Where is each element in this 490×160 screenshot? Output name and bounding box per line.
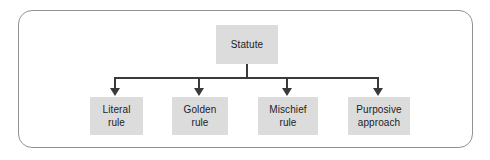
node-mischief-rule-label: Mischief rule — [269, 103, 306, 129]
arrow-down-icon-literal-rule — [110, 88, 120, 96]
node-statute-label: Statute — [231, 38, 263, 51]
connector-bus — [114, 77, 379, 79]
node-literal-rule: Literal rule — [90, 97, 143, 135]
arrow-down-icon-golden-rule — [194, 88, 204, 96]
node-mischief-rule: Mischief rule — [258, 97, 318, 135]
node-purposive-approach: Purposive approach — [348, 97, 410, 135]
diagram-root: Statute Literal rule Golden rule Mischie… — [0, 0, 490, 160]
arrow-down-icon-mischief-rule — [282, 88, 292, 96]
node-literal-rule-label: Literal rule — [103, 103, 131, 129]
node-purposive-approach-label: Purposive approach — [356, 103, 401, 129]
arrow-down-icon-purposive-approach — [373, 88, 383, 96]
node-golden-rule-label: Golden rule — [184, 103, 217, 129]
node-statute: Statute — [216, 25, 278, 64]
node-golden-rule: Golden rule — [172, 97, 228, 135]
